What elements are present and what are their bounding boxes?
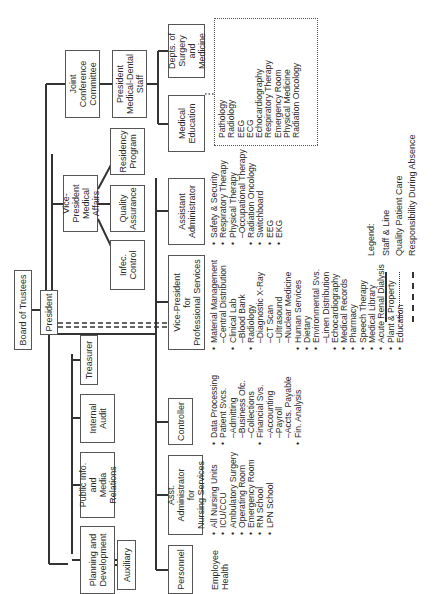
list-item: Fin. Analysis xyxy=(294,375,303,445)
assistant-administrator-list: Safety & SecurityRespiratory TherapyPhys… xyxy=(210,149,284,245)
asst-admin-nursing-box: Asst. Administrator for Nursing Services xyxy=(168,455,203,535)
internal-audit-box: Internal Audit xyxy=(80,394,115,443)
public-info-label: Public Info. and Media Relations xyxy=(78,455,118,515)
org-chart: Board of Trustees President Joint Confer… xyxy=(0,0,433,594)
assistant-administrator-label: Assistant Administrator xyxy=(177,185,197,238)
planning-development-label: Planning and Development xyxy=(88,533,108,586)
treasurer-label: Treasurer xyxy=(84,341,94,380)
medical-education-label: Medical Education xyxy=(177,103,197,143)
internal-audit-label: Internal Audit xyxy=(88,403,108,433)
joint-conference-committee-box: Joint Conference Committee xyxy=(65,50,100,118)
nursing-services-list: All Nursing UnitsICU/CCUAmbulatory Surge… xyxy=(210,452,275,535)
list-item: EKG xyxy=(275,149,284,245)
residency-program-box: Residency Program xyxy=(110,128,145,175)
controller-list: Data ProcessingPatient Svcs.–Admitting–B… xyxy=(210,375,303,445)
board-label: Board of Trustees xyxy=(18,274,28,345)
quality-assurance-box: Quality Assurance xyxy=(110,185,145,232)
vp-medical-affairs-label: Vice-President Medical Affairs xyxy=(61,178,101,229)
joint-conference-label: Joint Conference Committee xyxy=(68,61,98,108)
quality-patient-care-list: PathologyRadiologyEEGECGEchocardiography… xyxy=(218,60,302,138)
board-of-trustees-box: Board of Trustees xyxy=(14,270,32,350)
residency-program-label: Residency Program xyxy=(118,130,138,172)
controller-label: Controller xyxy=(176,402,186,441)
legend-dotted-line xyxy=(399,272,400,322)
legend-title: Legend: xyxy=(366,223,376,256)
vp-professional-services-box: Vice-President for Professional Services xyxy=(168,255,205,350)
vp-medical-affairs-box: Vice-President Medical Affairs xyxy=(63,175,98,232)
infec-control-label: Infec. Control xyxy=(118,251,138,280)
depts-surgery-label: Depts. of Surgery and Medicine xyxy=(167,27,207,75)
personnel-box: Personnel xyxy=(168,545,193,594)
president-label: President xyxy=(44,293,54,331)
list-item: Radiation Oncology xyxy=(292,60,301,138)
professional-services-list: Material Management–Central Distribution… xyxy=(210,260,405,350)
quality-assurance-label: Quality Assurance xyxy=(118,187,138,230)
employee-health-text: Employee Health xyxy=(210,550,230,590)
controller-box: Controller xyxy=(168,398,193,445)
assistant-administrator-box: Assistant Administrator xyxy=(168,178,205,245)
vp-professional-services-label: Vice-President for Professional Services xyxy=(172,259,202,346)
asst-admin-nursing-label: Asst. Administrator for Nursing Services xyxy=(166,458,206,532)
legend-label-solid: Staff & Line xyxy=(381,210,391,256)
president-box: President xyxy=(40,290,58,335)
president-medical-dental-staff-box: President Medical-Dental Staff xyxy=(112,50,147,118)
treasurer-box: Treasurer xyxy=(80,335,98,385)
legend-dashed-line xyxy=(412,272,414,322)
personnel-label: Personnel xyxy=(176,549,186,590)
legend-label-dotted: Quality Patient Care xyxy=(394,175,404,256)
legend-solid-line xyxy=(385,272,387,322)
auxiliary-label: Auxiliary xyxy=(122,548,132,582)
legend-label-dashed: Responsibility During Absence xyxy=(407,134,417,256)
president-medical-dental-label: President Medical-Dental Staff xyxy=(115,54,145,114)
infec-control-box: Infec. Control xyxy=(110,240,145,290)
auxiliary-box: Auxiliary xyxy=(117,540,136,590)
medical-education-box: Medical Education xyxy=(168,95,205,152)
list-item: LPN School xyxy=(266,452,275,535)
depts-surgery-medicine-box: Depts. of Surgery and Medicine xyxy=(168,24,205,78)
list-item: Education xyxy=(396,260,405,350)
public-info-media-relations-box: Public Info. and Media Relations xyxy=(80,452,115,518)
planning-development-box: Planning and Development xyxy=(80,526,115,594)
